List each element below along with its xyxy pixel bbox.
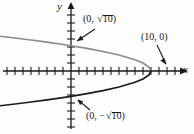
radical-expression: √10 [105, 111, 122, 121]
label-close-paren: ) [121, 110, 124, 121]
label-close-paren: ) [164, 31, 167, 42]
y-axis-label: y [57, 1, 62, 12]
label-y-intercept-positive: (0, √10) [83, 14, 116, 24]
y-axis [68, 2, 75, 129]
graph-figure: y x (0, √10) (10, 0) (0, −√10) [0, 0, 194, 134]
parabola-lower-branch [0, 71, 151, 106]
radical-overbar [103, 15, 113, 16]
arrow-to-vertex [157, 45, 166, 65]
arrow-to-lower-intercept [77, 100, 90, 111]
radical-overbar [112, 112, 122, 113]
arrow-to-upper-intercept [77, 29, 95, 41]
label-y-intercept-negative: (0, −√10) [86, 111, 125, 121]
parabola-upper-branch [0, 36, 151, 71]
x-axis-label: x [183, 64, 188, 75]
label-x-value: 10 [144, 31, 154, 42]
label-close-paren: ) [113, 13, 116, 24]
radical-expression: √10 [96, 14, 113, 24]
label-x-intercept: (10, 0) [141, 32, 168, 42]
